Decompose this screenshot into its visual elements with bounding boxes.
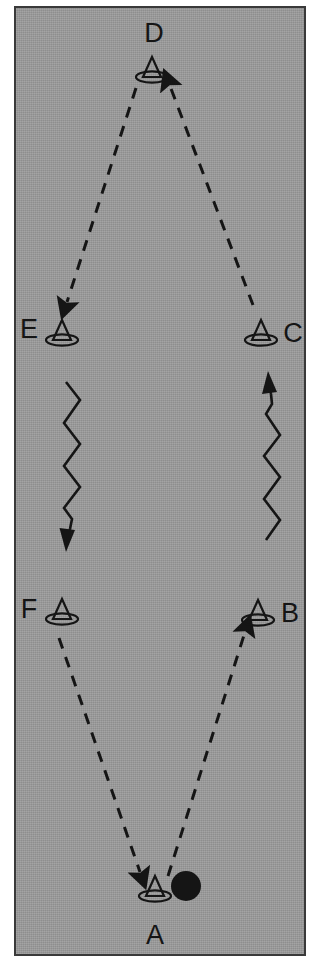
node-label-B: B — [281, 600, 299, 627]
node-label-C: C — [283, 320, 303, 347]
plate-texture — [16, 8, 304, 954]
diagram-plate — [14, 6, 306, 956]
node-label-E: E — [20, 316, 38, 343]
node-label-A: A — [146, 922, 164, 949]
node-label-F: F — [21, 596, 38, 623]
node-label-D: D — [144, 20, 164, 47]
figure-canvas: D E C F B A — [0, 0, 321, 972]
